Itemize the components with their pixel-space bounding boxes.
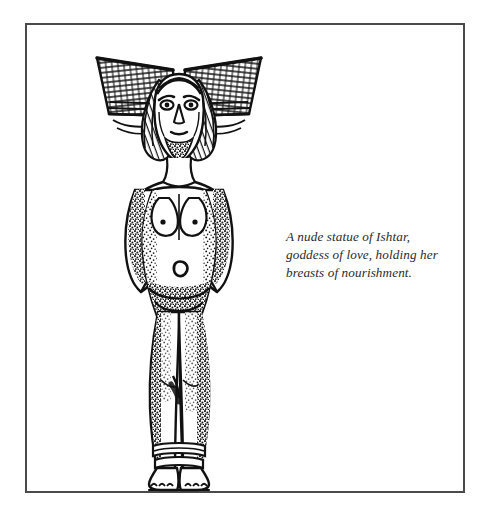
torso (141, 187, 219, 321)
feet (149, 468, 209, 490)
caption-line: breasts of nourishment. (286, 264, 436, 282)
illustration-plate-frame: A nude statue of Ishtar, goddess of love… (25, 23, 465, 493)
caption-line: goddess of love, holding her (286, 246, 436, 264)
ishtar-engraving-svg (79, 40, 279, 492)
engraving-ink (97, 58, 261, 490)
figure-caption: A nude statue of Ishtar, goddess of love… (286, 228, 436, 282)
caption-line: A nude statue of Ishtar, (286, 228, 436, 246)
ishtar-figure-illustration (79, 40, 279, 492)
page-root: A nude statue of Ishtar, goddess of love… (0, 0, 488, 531)
